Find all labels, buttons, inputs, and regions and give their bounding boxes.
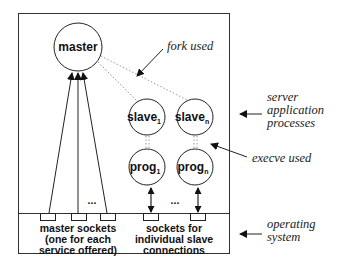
- prog-1-node: prog1: [129, 149, 165, 185]
- master-socket-2: [72, 214, 87, 221]
- master-sockets-ellipsis: ...: [88, 194, 97, 206]
- svg-text:prog1: prog1: [130, 160, 161, 175]
- slave-sockets-ellipsis: ...: [171, 194, 180, 206]
- svg-text:application: application: [267, 103, 324, 117]
- svg-text:server: server: [267, 90, 298, 104]
- slave-n-node: slaven: [175, 99, 213, 135]
- slave-1-node: slave1: [127, 99, 165, 135]
- slave-sockets-label: sockets for individual slave connections: [135, 222, 213, 256]
- master-sockets-label: master sockets (one for each service off…: [39, 222, 117, 256]
- svg-text:service offered): service offered): [39, 244, 117, 256]
- fork-used-pointer: [137, 49, 163, 76]
- operating-system-label: operating system: [267, 217, 316, 244]
- master-socket-3: [101, 214, 116, 221]
- master-slave-server-diagram: master slave1 slaven prog1 progn ... ..: [0, 0, 343, 270]
- svg-text:processes: processes: [266, 116, 315, 130]
- master-process-node: master: [54, 23, 102, 71]
- svg-text:slave1: slave1: [127, 110, 161, 125]
- svg-text:system: system: [267, 230, 300, 244]
- master-sockets: [41, 214, 116, 221]
- svg-text:progn: progn: [178, 160, 209, 175]
- svg-text:master: master: [58, 40, 98, 54]
- slave-sockets: [144, 214, 206, 221]
- slave-socket-n: [191, 214, 206, 221]
- master-socket-1: [41, 214, 56, 221]
- svg-text:slaven: slaven: [175, 110, 209, 125]
- svg-text:operating: operating: [267, 217, 316, 231]
- master-socket-arrows: [49, 73, 107, 213]
- slave-socket-1: [144, 214, 159, 221]
- server-processes-label: server application processes: [266, 90, 324, 130]
- fork-used-label: fork used: [167, 39, 214, 53]
- svg-text:connections: connections: [143, 244, 205, 256]
- execve-used-label: execve used: [252, 151, 312, 165]
- prog-n-node: progn: [177, 149, 213, 185]
